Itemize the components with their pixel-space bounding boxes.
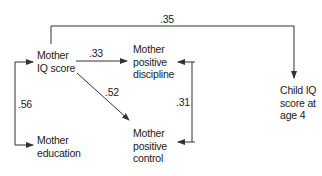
node-child-iq-score: Child IQ score at age 4 [280, 84, 316, 122]
edge-label-discipline-control: .31 [176, 97, 190, 108]
node-text: education [37, 147, 81, 160]
edge-label-iq-to-discipline: .33 [89, 48, 103, 59]
node-text: age 4 [280, 109, 316, 122]
edge-label-iq-to-control: .52 [105, 87, 119, 98]
node-text: Mother [133, 43, 174, 56]
node-mother-positive-control: Mother positive control [133, 127, 167, 165]
node-text: discipline [133, 68, 174, 81]
edge-label-iq-education: .56 [18, 99, 32, 110]
node-mother-positive-discipline: Mother positive discipline [133, 43, 174, 81]
node-text: Mother [37, 134, 81, 147]
edge-discipline-control [192, 62, 195, 142]
node-text: Mother [133, 127, 167, 140]
node-text: score at [280, 97, 316, 110]
node-mother-iq-score: Mother IQ score [37, 49, 75, 74]
edge-label-iq-to-child: .35 [160, 14, 174, 25]
node-mother-education: Mother education [37, 134, 81, 159]
node-text: IQ score [37, 62, 75, 75]
node-text: Mother [37, 49, 75, 62]
node-text: positive [133, 56, 174, 69]
edge-iq-to-control [77, 73, 129, 120]
node-text: positive [133, 140, 167, 153]
node-text: Child IQ [280, 84, 316, 97]
node-text: control [133, 152, 167, 165]
